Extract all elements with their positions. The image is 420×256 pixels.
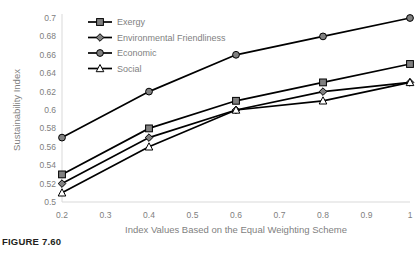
y-tick-label: 0.62 [39,87,56,97]
x-tick-label: 0.3 [100,210,112,220]
legend-marker [97,50,104,57]
series-marker [233,97,240,104]
legend-label: Exergy [117,17,146,27]
y-tick-label: 0.52 [39,179,56,189]
series-marker [407,61,414,68]
series-line [62,64,410,174]
line-chart: 0.50.520.540.560.580.60.620.640.660.680.… [0,0,420,256]
y-tick-label: 0.7 [44,13,56,23]
y-tick-label: 0.64 [39,68,56,78]
series-marker [233,51,240,58]
series-marker [320,33,327,40]
legend-label: Economic [117,48,157,58]
legend-marker [96,34,104,42]
series-marker [320,79,327,86]
legend-marker [97,19,104,26]
x-tick-label: 1 [408,210,413,220]
series-marker [59,134,66,141]
figure-caption: FIGURE 7.60 [2,236,61,247]
series-marker [145,134,153,142]
y-tick-label: 0.58 [39,123,56,133]
y-tick-label: 0.68 [39,31,56,41]
y-tick-label: 0.66 [39,50,56,60]
legend-label: Social [117,64,142,74]
x-tick-label: 0.8 [317,210,329,220]
series-marker [319,88,327,96]
x-tick-label: 0.7 [274,210,286,220]
x-axis-title: Index Values Based on the Equal Weightin… [125,224,347,235]
x-tick-label: 0.4 [143,210,155,220]
series-marker [58,189,66,196]
y-tick-label: 0.6 [44,105,56,115]
y-axis-title: Sustainability Index [11,69,22,151]
y-tick-label: 0.5 [44,197,56,207]
figure-container: 0.50.520.540.560.580.60.620.640.660.680.… [0,0,420,256]
x-tick-label: 0.9 [361,210,373,220]
y-tick-label: 0.54 [39,160,56,170]
series-marker [407,15,414,22]
x-tick-label: 0.5 [187,210,199,220]
series-marker [146,88,153,95]
x-tick-label: 0.6 [230,210,242,220]
series-marker [146,125,153,132]
x-tick-label: 0.2 [56,210,68,220]
y-tick-label: 0.56 [39,142,56,152]
legend-label: Environmental Friendliness [117,33,226,43]
series-marker [58,180,66,188]
series-line [62,18,410,138]
series-marker [59,171,66,178]
